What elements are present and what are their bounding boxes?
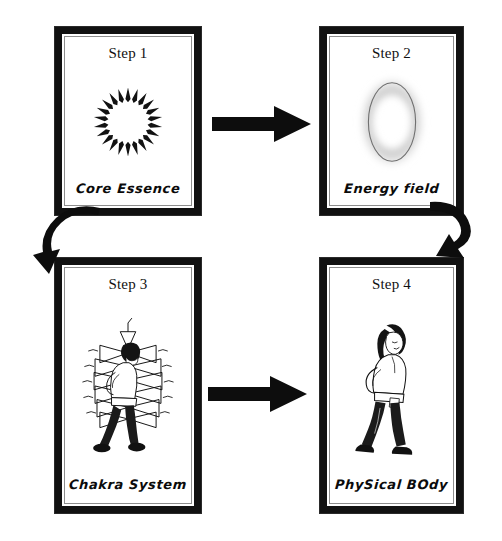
panel-step-3-inner: Step 3 [64, 267, 192, 504]
illustration-energy-field [330, 62, 453, 181]
panel-caption: Chakra System [69, 477, 188, 492]
chakra-figure-icon [65, 302, 191, 468]
step-title: Step 2 [372, 45, 411, 62]
spiked-ring-icon [85, 79, 171, 165]
step-title: Step 4 [372, 276, 411, 293]
standing-figure-icon [337, 305, 447, 465]
illustration-core-essence [65, 62, 191, 181]
curved-arrow-into-step3 [28, 198, 108, 274]
illustration-physical-body [330, 293, 453, 477]
panel-step-4[interactable]: Step 4 [320, 258, 463, 513]
panel-caption: PhySical BOdy [334, 477, 448, 492]
arrow-step1-to-step2 [212, 104, 312, 144]
diagram-canvas: Step 1 Core Essence Step 2 [0, 0, 502, 541]
glowing-aura-ellipse-icon [342, 63, 442, 181]
panel-step-2[interactable]: Step 2 [320, 27, 463, 215]
step-title: Step 3 [108, 276, 147, 293]
panel-step-1[interactable]: Step 1 Core Essence [55, 27, 201, 215]
panel-step-3[interactable]: Step 3 [55, 258, 201, 513]
illustration-chakra-system [65, 293, 191, 477]
panel-step-2-inner: Step 2 [329, 36, 454, 206]
step-title: Step 1 [108, 45, 147, 62]
arrow-step3-to-step4 [208, 374, 308, 414]
curved-arrow-step2-to-step3 [424, 198, 496, 270]
panel-step-4-inner: Step 4 [329, 267, 454, 504]
panel-caption: Energy field [343, 181, 440, 196]
panel-step-1-inner: Step 1 Core Essence [64, 36, 192, 206]
panel-caption: Core Essence [75, 181, 180, 196]
